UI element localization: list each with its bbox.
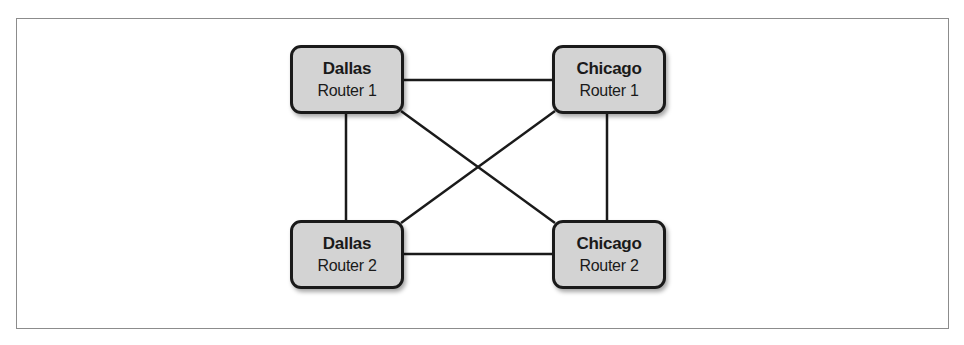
node-city-label: Chicago [577, 59, 642, 79]
node-device-label: Router 2 [580, 257, 639, 275]
links-layer [0, 0, 964, 345]
node-dallas-router-2: Dallas Router 2 [290, 220, 404, 289]
node-device-label: Router 1 [580, 82, 639, 100]
node-city-label: Chicago [577, 234, 642, 254]
node-device-label: Router 1 [318, 82, 377, 100]
node-chicago-router-1: Chicago Router 1 [552, 45, 666, 114]
node-city-label: Dallas [323, 234, 371, 254]
node-chicago-router-2: Chicago Router 2 [552, 220, 666, 289]
node-city-label: Dallas [323, 59, 371, 79]
node-device-label: Router 2 [318, 257, 377, 275]
node-dallas-router-1: Dallas Router 1 [290, 45, 404, 114]
